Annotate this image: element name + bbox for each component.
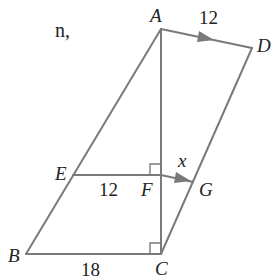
label-D: D — [256, 35, 271, 56]
geometry-figure: n, A D E F G B C 12 12 x 18 — [0, 0, 274, 280]
caption-fragment: n, — [55, 19, 70, 41]
segment-AB — [26, 29, 161, 254]
measure-BC: 18 — [81, 259, 100, 280]
label-G: G — [199, 179, 213, 200]
right-angle-icon-F — [150, 164, 161, 175]
label-F: F — [140, 179, 153, 200]
segment-DC — [161, 48, 252, 254]
right-angle-icon-C — [150, 243, 161, 254]
label-E: E — [54, 163, 67, 184]
measure-EF: 12 — [99, 179, 118, 200]
label-A: A — [148, 5, 162, 26]
measure-FG: x — [177, 150, 187, 171]
label-B: B — [8, 245, 20, 266]
measure-AD: 12 — [199, 7, 218, 28]
label-C: C — [155, 258, 168, 279]
